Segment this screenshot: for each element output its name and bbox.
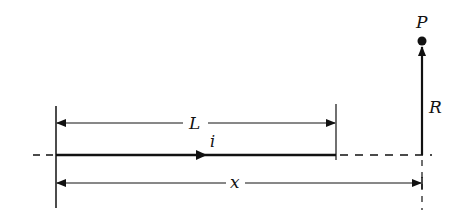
label-P: P [415,12,428,32]
current-arrow-icon [196,150,207,160]
label-R: R [428,97,442,117]
point-P [418,37,427,46]
label-L: L [188,113,200,133]
label-x: x [230,172,240,192]
label-i: i [210,132,215,151]
wire-diagram: P R L i x [0,0,465,219]
